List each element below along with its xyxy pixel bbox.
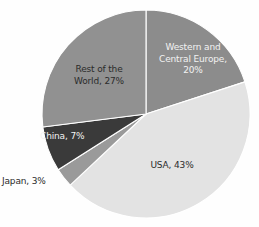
pie-slices-group [42, 10, 250, 218]
pie-slice-rest-of-the-world [42, 10, 146, 127]
pie-chart-canvas [0, 0, 259, 227]
pie-chart: Western and Central Europe, 20% USA, 43%… [0, 0, 259, 227]
